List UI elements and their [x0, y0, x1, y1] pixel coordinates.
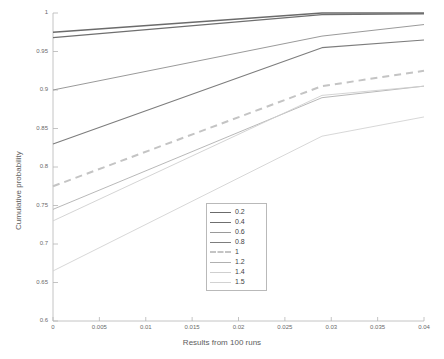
legend-item-0-6[interactable]: 0.6	[207, 227, 266, 237]
x-axis-label: Results from 100 runs	[0, 338, 444, 347]
legend-line-swatch	[210, 212, 231, 213]
y-tick-label: 0.65	[12, 279, 48, 285]
legend-line-swatch	[210, 251, 231, 253]
x-tick-label: 0.005	[79, 324, 119, 330]
chart-figure: 0.60.650.70.750.80.850.90.951 00.0050.01…	[0, 0, 444, 359]
x-tick-label: 0.03	[311, 324, 351, 330]
legend-item-label: 1	[235, 247, 239, 257]
chart-legend: 0.20.40.60.811.21.41.5	[206, 203, 267, 291]
legend-line-swatch	[210, 232, 231, 233]
legend-item-1-2[interactable]: 1.2	[207, 257, 266, 267]
legend-item-1-4[interactable]: 1.4	[207, 267, 266, 277]
y-axis-label: Cumulative probability	[14, 151, 23, 230]
legend-item-label: 0.6	[235, 227, 245, 237]
x-tick-label: 0	[33, 324, 73, 330]
x-tick-label: 0.02	[219, 324, 259, 330]
legend-line-swatch	[210, 222, 231, 223]
plot-canvas	[0, 0, 444, 359]
legend-item-0-4[interactable]: 0.4	[207, 217, 266, 227]
legend-item-label: 1.2	[235, 257, 245, 267]
series-line-0-6	[53, 25, 424, 90]
series-line-1	[53, 71, 424, 187]
y-tick-label: 0.95	[12, 48, 48, 54]
x-tick-label: 0.025	[265, 324, 305, 330]
y-tick-label: 1	[12, 9, 48, 15]
y-tick-label: 0.7	[12, 240, 48, 246]
legend-line-swatch	[210, 262, 231, 263]
legend-line-swatch	[210, 282, 231, 283]
legend-item-label: 0.4	[235, 217, 245, 227]
legend-line-swatch	[210, 242, 231, 243]
x-tick-label: 0.035	[358, 324, 398, 330]
legend-item-label: 0.8	[235, 237, 245, 247]
x-tick-label: 0.04	[404, 324, 444, 330]
x-tick-label: 0.015	[172, 324, 212, 330]
series-line-0-2	[53, 13, 424, 32]
y-tick-label: 0.9	[12, 86, 48, 92]
legend-item-0-8[interactable]: 0.8	[207, 237, 266, 247]
y-tick-label: 0.85	[12, 125, 48, 131]
legend-item-0-2[interactable]: 0.2	[207, 207, 266, 217]
legend-line-swatch	[210, 272, 231, 273]
legend-item-1-5[interactable]: 1.5	[207, 277, 266, 287]
y-tick-label: 0.6	[12, 317, 48, 323]
series-line-1-4	[53, 86, 424, 221]
legend-item-1[interactable]: 1	[207, 247, 266, 257]
series-line-0-8	[53, 40, 424, 144]
legend-item-label: 1.4	[235, 267, 245, 277]
x-tick-label: 0.01	[126, 324, 166, 330]
legend-item-label: 0.2	[235, 207, 245, 217]
legend-item-label: 1.5	[235, 277, 245, 287]
series-line-0-4	[53, 14, 424, 38]
series-line-1-2	[53, 86, 424, 209]
